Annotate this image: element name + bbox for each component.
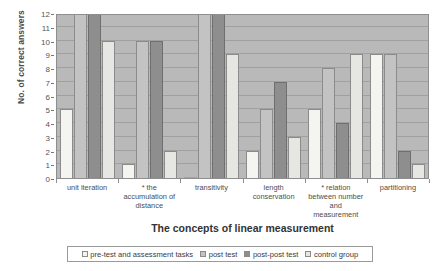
y-axis-tick-label: 4	[46, 120, 50, 129]
bar-group	[304, 15, 366, 178]
bar	[74, 14, 87, 178]
bar	[164, 151, 177, 179]
bar	[288, 137, 301, 178]
y-axis-tick-mark	[51, 165, 54, 166]
x-axis-tick-mark	[429, 179, 430, 183]
y-axis-tick-mark	[51, 69, 54, 70]
bar	[60, 109, 73, 178]
y-axis-tick-label: 5	[46, 106, 50, 115]
bar	[198, 14, 211, 178]
x-axis-title: The concepts of linear measurement	[56, 222, 429, 234]
legend-item: pre-test and assessment tasks	[82, 250, 193, 259]
bar	[398, 151, 411, 179]
bar	[150, 41, 163, 179]
x-axis-tick-labels: unit iteration* the accumulation of dist…	[56, 183, 429, 219]
y-axis-tick-mark	[51, 124, 54, 125]
legend-label: post test	[209, 250, 238, 259]
bar	[184, 177, 197, 178]
bar	[308, 109, 321, 178]
x-axis-tick-label: length conservation	[243, 183, 305, 219]
y-axis-tick-label: 10	[41, 37, 50, 46]
y-axis-tick-label: 3	[46, 133, 50, 142]
x-axis-tick-label: * the accumulation of distance	[118, 183, 180, 219]
y-axis-tick-label: 6	[46, 92, 50, 101]
bar-groups	[57, 15, 428, 178]
chart-legend: pre-test and assessment taskspost testpo…	[67, 246, 373, 262]
y-axis-tick-mark	[51, 179, 54, 180]
plot-area	[56, 14, 429, 179]
bar	[412, 164, 425, 178]
bar-group	[242, 15, 304, 178]
y-axis-tick-label: 0	[46, 175, 50, 184]
y-axis-tick-label: 9	[46, 51, 50, 60]
bar-group	[57, 15, 119, 178]
bar	[260, 109, 273, 178]
y-axis-tick-mark	[51, 14, 54, 15]
bar	[246, 151, 259, 179]
legend-item: post test	[200, 250, 237, 259]
y-axis-tick-mark	[51, 55, 54, 56]
bar	[274, 82, 287, 178]
bar	[136, 41, 149, 179]
bar	[350, 54, 363, 178]
y-axis-tick-label: 12	[41, 10, 50, 19]
bar	[212, 14, 225, 178]
legend-item: post-post test	[244, 250, 298, 259]
bar	[102, 41, 115, 179]
x-axis-tick-label: * relation between number and measuremen…	[305, 183, 367, 219]
legend-label: pre-test and assessment tasks	[90, 250, 193, 259]
bar	[226, 54, 239, 178]
legend-swatch-icon	[305, 251, 311, 257]
legend-swatch-icon	[82, 251, 88, 257]
y-axis-tick-label: 1	[46, 161, 50, 170]
legend-label: post-post test	[253, 250, 299, 259]
y-axis-tick-labels: 0123456789101112	[34, 14, 54, 179]
bar-group	[119, 15, 181, 178]
x-axis-tick-label: partitioning	[367, 183, 429, 219]
y-axis-tick-mark	[51, 152, 54, 153]
y-axis-tick-label: 2	[46, 147, 50, 156]
y-axis-tick-mark	[51, 42, 54, 43]
legend-item: control group	[305, 250, 358, 259]
bar	[88, 14, 101, 178]
bar-group	[181, 15, 243, 178]
chart-figure: No. of correct answers 0123456789101112 …	[0, 0, 434, 271]
y-axis-tick-mark	[51, 138, 54, 139]
y-axis-tick-label: 8	[46, 65, 50, 74]
bar	[370, 54, 383, 178]
bar	[336, 123, 349, 178]
y-axis-tick-label: 7	[46, 78, 50, 87]
y-axis-tick-mark	[51, 28, 54, 29]
bar-group	[366, 15, 428, 178]
y-axis-tick-label: 11	[42, 23, 50, 32]
legend-swatch-icon	[200, 251, 206, 257]
y-axis-tick-mark	[51, 97, 54, 98]
x-axis-tick-label: unit iteration	[56, 183, 118, 219]
y-axis-tick-mark	[51, 110, 54, 111]
legend-label: control group	[314, 250, 358, 259]
y-axis-tick-mark	[51, 83, 54, 84]
x-axis-tick-label: transitivity	[180, 183, 242, 219]
bar	[322, 68, 335, 178]
legend-swatch-icon	[244, 251, 250, 257]
bar	[384, 54, 397, 178]
bar	[122, 164, 135, 178]
y-axis-title: No. of correct answers	[16, 0, 26, 122]
